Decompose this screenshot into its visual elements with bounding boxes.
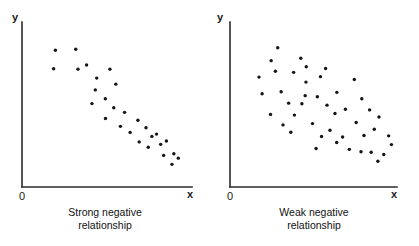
data-point xyxy=(162,154,165,157)
data-point xyxy=(353,78,356,81)
data-point xyxy=(85,63,88,66)
data-point xyxy=(335,91,338,94)
data-point xyxy=(150,135,153,138)
data-point xyxy=(344,107,347,110)
data-point xyxy=(269,59,272,62)
data-point xyxy=(368,108,371,111)
data-point xyxy=(316,95,319,98)
data-point xyxy=(303,94,306,97)
data-point xyxy=(279,90,282,93)
data-point xyxy=(104,97,107,100)
data-point xyxy=(52,67,55,70)
data-point xyxy=(324,67,327,70)
caption-line-2: relationship xyxy=(209,219,419,232)
data-point xyxy=(177,156,180,159)
panel-weak-negative: y x 0 Weak negative relationship xyxy=(209,0,419,246)
data-point xyxy=(172,152,175,155)
data-point xyxy=(112,106,115,109)
data-point xyxy=(95,76,98,79)
caption-line-1: Weak negative xyxy=(209,206,419,219)
y-axis-label: y xyxy=(217,12,223,23)
data-point xyxy=(390,143,393,146)
data-point xyxy=(359,150,362,153)
data-point xyxy=(76,67,79,70)
data-point xyxy=(269,113,272,116)
data-point xyxy=(325,103,328,106)
caption-weak-negative: Weak negative relationship xyxy=(209,206,419,232)
data-point xyxy=(335,141,338,144)
scatter-plot-strong-negative xyxy=(0,0,210,205)
data-point xyxy=(387,134,390,137)
origin-label: 0 xyxy=(227,191,233,202)
data-point xyxy=(114,82,117,85)
data-point xyxy=(281,123,284,126)
data-point xyxy=(299,57,302,60)
scatter-plot-weak-negative xyxy=(209,0,419,205)
origin-label: 0 xyxy=(19,191,25,202)
data-point xyxy=(287,101,290,104)
caption-line-2: relationship xyxy=(0,219,210,232)
data-point xyxy=(354,121,357,124)
data-point xyxy=(119,125,122,128)
data-point xyxy=(328,129,331,132)
data-point xyxy=(128,131,131,134)
data-point xyxy=(90,102,93,105)
plot-area-weak-negative: y x 0 xyxy=(209,0,419,205)
data-point xyxy=(377,115,380,118)
data-point xyxy=(289,131,292,134)
data-point xyxy=(382,153,385,156)
data-point xyxy=(276,46,279,49)
data-point xyxy=(311,122,314,125)
data-point xyxy=(147,146,150,149)
x-axis-label: x xyxy=(187,189,193,200)
data-point xyxy=(104,117,107,120)
data-point xyxy=(319,75,322,78)
data-point xyxy=(170,163,173,166)
data-point xyxy=(257,75,260,78)
y-axis-label: y xyxy=(12,12,18,23)
caption-strong-negative: Strong negative relationship xyxy=(0,206,210,232)
data-point xyxy=(305,65,308,68)
panel-strong-negative: y x 0 Strong negative relationship xyxy=(0,0,210,246)
data-point xyxy=(123,111,126,114)
data-point xyxy=(320,135,323,138)
data-point xyxy=(341,135,344,138)
data-point xyxy=(314,147,317,150)
caption-line-1: Strong negative xyxy=(0,206,210,219)
data-point xyxy=(136,119,139,122)
data-point xyxy=(137,140,140,143)
x-axis-label: x xyxy=(391,189,397,200)
data-point xyxy=(144,126,147,129)
data-point xyxy=(54,49,57,52)
data-point xyxy=(360,97,363,100)
data-point xyxy=(159,143,162,146)
data-point xyxy=(155,132,158,135)
data-point xyxy=(165,139,168,142)
data-point xyxy=(260,92,263,95)
data-point xyxy=(293,113,296,116)
data-point xyxy=(300,102,303,105)
data-point xyxy=(94,88,97,91)
data-point xyxy=(74,48,77,51)
data-point xyxy=(108,67,111,70)
data-point xyxy=(333,112,336,115)
data-point xyxy=(373,128,376,131)
data-point xyxy=(304,80,307,83)
data-point xyxy=(292,71,295,74)
data-point xyxy=(348,148,351,151)
data-point xyxy=(362,134,365,137)
scatterplot-figure: y x 0 Strong negative relationship y x 0… xyxy=(0,0,419,246)
data-point xyxy=(376,159,379,162)
plot-area-strong-negative: y x 0 xyxy=(0,0,210,205)
data-point xyxy=(274,69,277,72)
data-point xyxy=(369,151,372,154)
